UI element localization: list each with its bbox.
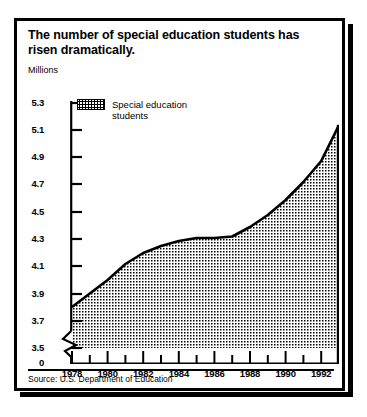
chart-legend: Special education students: [77, 99, 222, 121]
y-tick-label-5-3: 5.3: [20, 97, 44, 108]
area-chart-svg: [58, 83, 339, 364]
chart-title: The number of special education students…: [28, 28, 328, 57]
x-axis-ticks: [72, 351, 338, 364]
y-tick-label-5-1: 5.1: [20, 124, 44, 135]
source-note: Source: U.S. Department of Education: [28, 374, 173, 384]
figure-drop-shadow-right: [348, 24, 353, 397]
y-tick-label-4-1: 4.1: [20, 260, 44, 271]
figure-drop-shadow-bottom: [20, 392, 353, 397]
legend-entry-label: Special education students: [112, 99, 222, 121]
plot-area: 5.3 5.1 4.9 4.7 4.5 4.3 4.1 3.9 3.7 3.5 …: [58, 83, 339, 364]
y-tick-label-3-9: 3.9: [20, 288, 44, 299]
y-tick-label-3-7: 3.7: [20, 315, 44, 326]
chart-figure: The number of special education students…: [14, 18, 345, 391]
y-axis-unit-label: Millions: [28, 65, 58, 75]
y-axis-zero-label: 0: [20, 357, 44, 368]
y-tick-label-4-7: 4.7: [20, 178, 44, 189]
y-tick-label-3-5: 3.5: [20, 342, 44, 353]
stipple-pattern-swatch: [77, 99, 105, 110]
area-series-special-education: [72, 125, 339, 348]
y-tick-label-4-9: 4.9: [20, 151, 44, 162]
y-tick-label-4-5: 4.5: [20, 206, 44, 217]
footer-divider: [28, 369, 334, 371]
y-tick-label-4-3: 4.3: [20, 233, 44, 244]
